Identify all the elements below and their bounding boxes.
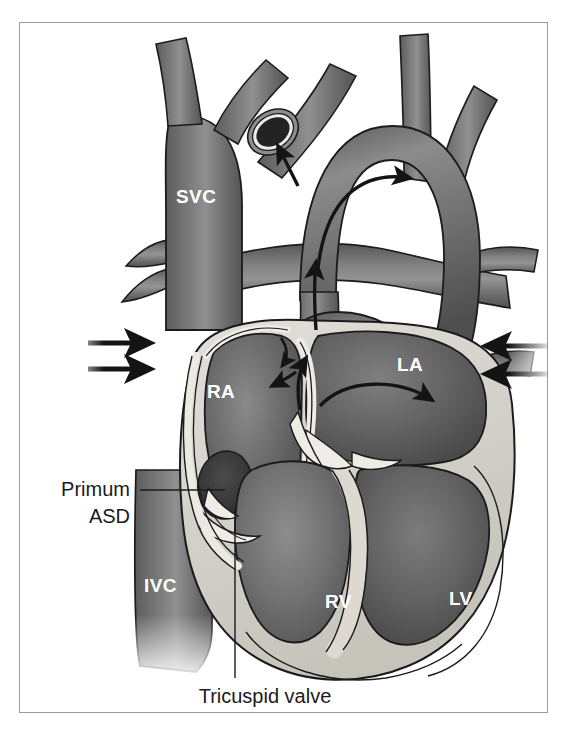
left-arrow-fade bbox=[70, 326, 104, 388]
left-atrium-chamber bbox=[306, 332, 486, 466]
tricuspid-valve-label: Tricuspid valve bbox=[199, 685, 332, 707]
ascending-aorta-flow-arrow bbox=[315, 262, 317, 330]
label-lv: LV bbox=[449, 588, 473, 609]
primum-asd-label-line1: Primum bbox=[61, 478, 130, 500]
primum-asd-label-line2: ASD bbox=[89, 505, 130, 527]
label-ivc: IVC bbox=[144, 575, 177, 596]
figure-root: SVC RA LA IVC RV LV Primum ASD Tricuspid… bbox=[0, 0, 570, 736]
label-rv: RV bbox=[325, 591, 352, 612]
label-la: LA bbox=[397, 354, 423, 375]
right-arrow-fade bbox=[508, 330, 554, 392]
innominate-vein-left bbox=[156, 38, 202, 126]
heart-body-group bbox=[180, 320, 515, 680]
label-svc: SVC bbox=[176, 186, 216, 207]
heart-diagram: SVC RA LA IVC RV LV Primum ASD Tricuspid… bbox=[0, 0, 570, 736]
label-ra: RA bbox=[207, 381, 235, 402]
superior-vena-cava bbox=[166, 115, 242, 330]
ivc-fade-mask bbox=[128, 614, 224, 684]
